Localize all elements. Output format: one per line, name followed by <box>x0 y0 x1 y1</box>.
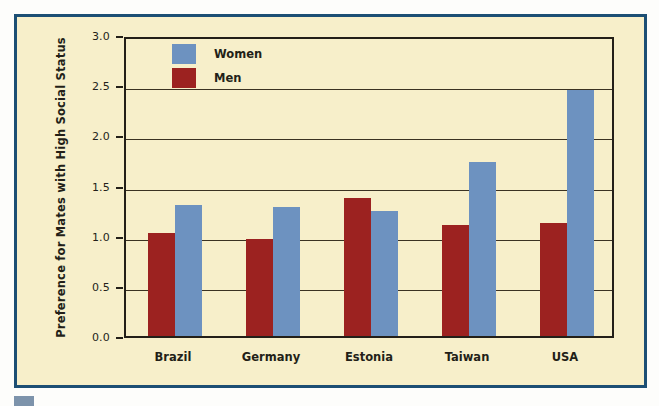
y-tick-mark <box>116 36 123 38</box>
x-tick-label-usa: USA <box>552 350 579 364</box>
gridline <box>126 190 612 191</box>
legend-item-women: Women <box>172 42 262 66</box>
x-tick-label-germany: Germany <box>242 350 300 364</box>
bar-taiwan-men <box>442 225 469 336</box>
corner-marker <box>14 396 34 406</box>
bar-usa-women <box>567 90 594 336</box>
legend-item-men: Men <box>172 66 262 90</box>
y-tick-mark <box>116 86 123 88</box>
y-tick-mark <box>116 237 123 239</box>
y-tick-label: 2.0 <box>76 130 110 143</box>
y-tick-mark <box>116 187 123 189</box>
y-tick-label: 1.0 <box>76 231 110 244</box>
y-tick-label: 1.5 <box>76 181 110 194</box>
legend-swatch-women <box>172 44 196 64</box>
y-tick-label: 0.0 <box>76 331 110 344</box>
chart-legend: WomenMen <box>172 42 262 90</box>
gridline <box>126 139 612 140</box>
x-tick-label-taiwan: Taiwan <box>445 350 490 364</box>
bar-estonia-women <box>371 211 398 336</box>
y-axis-title: Preference for Mates with High Social St… <box>53 37 69 338</box>
x-tick-label-brazil: Brazil <box>155 350 192 364</box>
y-tick-label: 0.5 <box>76 281 110 294</box>
y-tick-label: 3.0 <box>76 30 110 43</box>
y-tick-mark <box>116 287 123 289</box>
bar-brazil-men <box>148 233 175 336</box>
chart-figure: Preference for Mates with High Social St… <box>0 0 659 406</box>
x-tick-label-estonia: Estonia <box>345 350 393 364</box>
legend-label-women: Women <box>214 47 262 61</box>
legend-swatch-men <box>172 68 196 88</box>
y-tick-mark <box>116 136 123 138</box>
bar-germany-women <box>273 207 300 336</box>
y-tick-label: 2.5 <box>76 80 110 93</box>
legend-label-men: Men <box>214 71 241 85</box>
bar-brazil-women <box>175 205 202 336</box>
bar-usa-men <box>540 223 567 336</box>
bar-germany-men <box>246 239 273 336</box>
bar-taiwan-women <box>469 162 496 336</box>
bar-estonia-men <box>344 198 371 336</box>
y-tick-mark <box>116 337 123 339</box>
